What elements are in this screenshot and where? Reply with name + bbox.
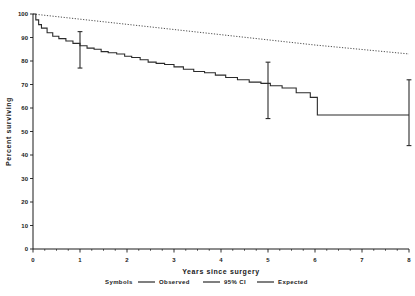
x-tick-label: 7	[360, 257, 364, 263]
legend-label-observed: Observed	[159, 279, 190, 285]
x-tick-label: 5	[266, 257, 270, 263]
observed-step-line	[33, 14, 409, 115]
x-tick-group: 012345678	[31, 249, 411, 263]
y-tick-label: 80	[21, 58, 28, 64]
y-tick-label: 50	[21, 129, 28, 135]
x-tick-label: 3	[172, 257, 176, 263]
y-tick-label: 100	[18, 11, 29, 17]
x-axis-title: Years since surgery	[182, 268, 260, 276]
legend-label-ci: 95% CI	[224, 279, 246, 285]
y-tick-label: 10	[21, 223, 28, 229]
legend-label-expected: Expected	[278, 279, 308, 285]
x-tick-label: 2	[125, 257, 129, 263]
y-tick-label: 70	[21, 82, 28, 88]
y-tick-label: 90	[21, 35, 28, 41]
legend-title: Symbols	[105, 279, 133, 285]
confidence-interval-bars	[78, 32, 412, 146]
y-tick-group: 0102030405060708090100	[18, 11, 33, 252]
x-tick-label: 1	[78, 257, 82, 263]
y-axis-title: Percent surviving	[5, 97, 13, 166]
y-tick-label: 40	[21, 152, 28, 158]
y-tick-label: 30	[21, 176, 28, 182]
y-tick-label: 0	[25, 246, 29, 252]
y-axis: 0102030405060708090100	[18, 11, 33, 252]
plot-area: 0102030405060708090100 012345678 Years s…	[0, 0, 415, 296]
x-tick-label: 4	[219, 257, 223, 263]
x-axis: 012345678	[31, 249, 411, 263]
y-tick-label: 60	[21, 105, 28, 111]
survival-chart: 0102030405060708090100 012345678 Years s…	[0, 0, 415, 296]
x-tick-label: 6	[313, 257, 317, 263]
y-tick-label: 20	[21, 199, 28, 205]
chart-legend: Symbols Observed 95% CI Expected	[105, 279, 308, 285]
x-tick-label: 8	[407, 257, 411, 263]
x-tick-label: 0	[31, 257, 35, 263]
series-group	[33, 14, 411, 146]
